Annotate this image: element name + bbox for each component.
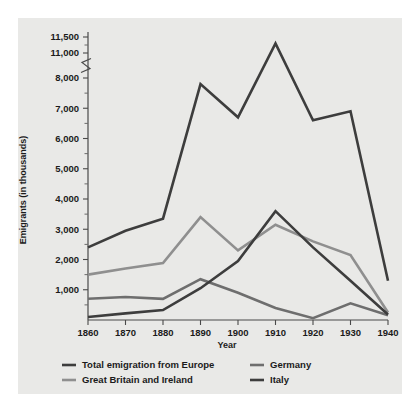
x-tick-label: 1940 xyxy=(377,327,398,338)
y-tick-label: 11,000 xyxy=(50,47,79,58)
x-tick-label: 1890 xyxy=(190,327,211,338)
x-tick-label: 1870 xyxy=(115,327,136,338)
legend-label: Italy xyxy=(270,374,290,385)
x-axis-ticks xyxy=(88,320,388,325)
y-tick-label: 7,000 xyxy=(55,103,79,114)
chart-legend: Total emigration from EuropeGreat Britai… xyxy=(62,359,312,385)
x-axis-tick-labels: 186018701880189019001910192019301940 xyxy=(77,327,398,338)
x-tick-label: 1910 xyxy=(265,327,286,338)
y-tick-label: 6,000 xyxy=(55,133,79,144)
x-tick-label: 1900 xyxy=(227,327,248,338)
y-axis-title: Emigrants (in thousands) xyxy=(18,136,28,245)
legend-label: Total emigration from Europe xyxy=(82,359,214,370)
legend-label: Great Britain and Ireland xyxy=(82,374,193,385)
chart-series-group xyxy=(88,43,388,318)
series-line xyxy=(88,43,388,280)
y-tick-label: 3,000 xyxy=(55,224,79,235)
x-tick-label: 1920 xyxy=(302,327,323,338)
x-tick-label: 1860 xyxy=(77,327,98,338)
x-tick-label: 1880 xyxy=(152,327,173,338)
legend-label: Germany xyxy=(270,359,312,370)
y-tick-label: 4,000 xyxy=(55,193,79,204)
y-tick-label: 8,000 xyxy=(55,72,79,83)
chart-plot-area: 1,0002,0003,0004,0005,0006,0007,0008,000… xyxy=(0,0,420,405)
y-tick-label: 2,000 xyxy=(55,254,79,265)
y-axis-ticks xyxy=(83,37,88,305)
y-tick-label: 1,000 xyxy=(55,284,79,295)
x-axis-title: Year xyxy=(217,340,237,350)
y-tick-label: 11,500 xyxy=(50,31,79,42)
y-axis-tick-labels: 1,0002,0003,0004,0005,0006,0007,0008,000… xyxy=(50,31,79,295)
x-tick-label: 1930 xyxy=(340,327,361,338)
y-tick-label: 5,000 xyxy=(55,163,79,174)
chart-figure: 1,0002,0003,0004,0005,0006,0007,0008,000… xyxy=(0,0,420,405)
axis-break-icon xyxy=(81,59,91,73)
